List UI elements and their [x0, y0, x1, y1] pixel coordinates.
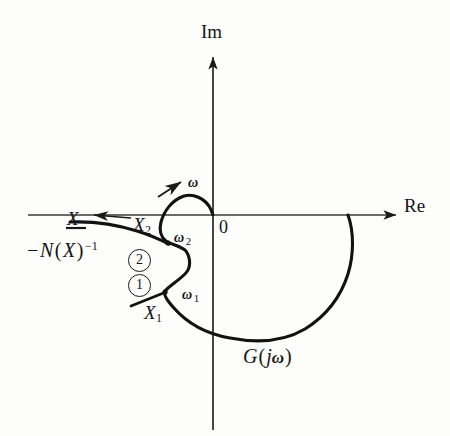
intersection-label-x1: X1	[144, 303, 162, 324]
real-axis-label: Re	[404, 196, 425, 215]
gjw-g: G	[243, 345, 257, 367]
intersection-point-x2	[165, 240, 170, 245]
describing-n-symbol: N	[40, 239, 54, 261]
omega2-base: ω	[174, 230, 184, 245]
imaginary-axis-label: Im	[201, 22, 222, 41]
branch-marker-two: 2	[128, 249, 151, 272]
gjw-omega: ω	[272, 348, 284, 367]
x1-base: X	[144, 302, 156, 323]
gjw-close-paren: )	[284, 345, 293, 367]
describing-minus-sign: −	[26, 239, 40, 261]
describing-function-label: −N(X)−1	[26, 240, 98, 260]
describing-exponent: −1	[85, 239, 98, 253]
origin-label: 0	[219, 218, 228, 236]
gjw-open-paren: (	[257, 345, 266, 367]
transfer-function-label: G(jω)	[243, 346, 293, 366]
nyquist-locus-curve	[160, 195, 352, 341]
x2-base: X	[133, 214, 145, 235]
describing-x-symbol: X	[63, 239, 76, 261]
omega1-subscript: 1	[192, 292, 199, 304]
x1-subscript: 1	[156, 311, 163, 325]
omega-direction-label: ω	[188, 176, 198, 190]
describing-open-paren: (	[54, 239, 63, 261]
omega-direction-arrow	[158, 182, 181, 197]
branch-marker-one: 1	[128, 274, 151, 297]
intersection-label-x2: X2	[133, 215, 151, 236]
omega-one-label: ω1	[182, 288, 199, 304]
amplitude-marker-label: X	[67, 209, 79, 228]
describing-close-paren: )	[76, 239, 85, 261]
intersection-point-x1	[162, 289, 167, 294]
omega1-base: ω	[182, 287, 192, 302]
omega2-subscript: 2	[184, 235, 191, 247]
nyquist-describing-function-figure: Im Re 0 −N(X)−1 X X2 X1 ω ω2 ω1 2 1 G(jω…	[0, 0, 450, 436]
x2-subscript: 2	[145, 223, 152, 237]
omega-two-label: ω2	[174, 231, 191, 247]
